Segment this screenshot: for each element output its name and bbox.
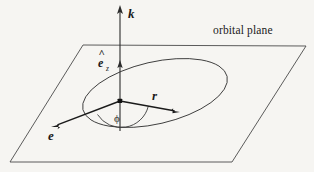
figure-root: orbital plane k ^ e z r e ϕ — [0, 0, 314, 172]
phi-angle-label: ϕ — [114, 112, 120, 124]
k-vector-label: k — [128, 6, 135, 21]
e-vector-label: e — [48, 128, 54, 143]
ez-subscript-label: z — [105, 64, 109, 73]
orbital-plane-diagram: orbital plane k ^ e z r e ϕ — [0, 0, 314, 172]
focus-point-dot — [118, 99, 123, 103]
orbital-plane-label: orbital plane — [213, 24, 273, 37]
ez-vector-label: e — [98, 56, 104, 70]
